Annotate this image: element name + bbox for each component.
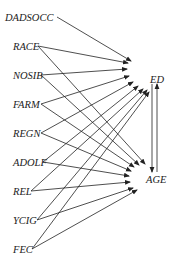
arrow-regn-to-age — [41, 133, 131, 171]
arrow-fec-to-ed — [32, 92, 149, 249]
node-ycig: YCIG — [13, 215, 37, 226]
node-nosib: NOSIB — [12, 70, 43, 81]
arrow-fec-to-age — [32, 190, 137, 249]
labels-group: DADSOCCRACENOSIBFARMREGNADOLFRELYCIGFECE… — [4, 12, 167, 255]
node-farm: FARM — [12, 99, 41, 110]
node-regn: REGN — [12, 128, 41, 139]
node-race: RACE — [12, 41, 40, 52]
edges-group — [31, 17, 157, 249]
arrow-farm-to-ed — [41, 76, 129, 104]
node-rel: REL — [12, 186, 32, 197]
arrow-ycig-to-ed — [37, 90, 147, 220]
node-age: AGE — [145, 174, 167, 185]
arrow-ycig-to-age — [37, 188, 133, 220]
node-adolf: ADOLF — [12, 157, 47, 168]
node-fec: FEC — [12, 244, 34, 255]
arrow-adolf-to-age — [43, 162, 129, 176]
node-ed: ED — [149, 74, 164, 85]
arrow-dadsocc-to-ed — [57, 17, 131, 61]
arrow-nosib-to-ed — [41, 69, 127, 75]
arrow-race-to-age — [38, 46, 145, 164]
arrow-farm-to-age — [41, 104, 134, 167]
path-diagram: DADSOCCRACENOSIBFARMREGNADOLFRELYCIGFECE… — [0, 0, 174, 261]
node-dadsocc: DADSOCC — [4, 12, 54, 23]
